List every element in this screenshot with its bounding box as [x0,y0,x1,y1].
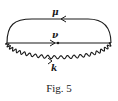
nu-vertex-dot [57,42,59,44]
mu-line [7,19,111,43]
figure-caption: Fig. 5 [0,82,118,94]
nu-label: ν [52,30,59,40]
k-label: k [51,63,57,73]
mu-label: μ [52,7,59,17]
k-wavy-line [6,43,111,59]
